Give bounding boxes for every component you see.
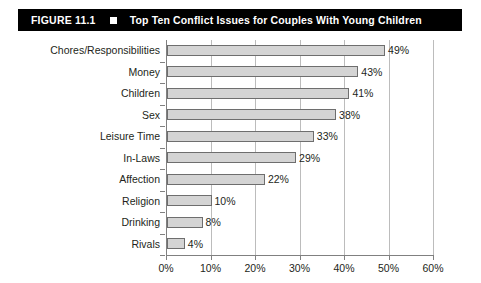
x-axis-tick-label: 30% xyxy=(280,262,320,274)
bar xyxy=(167,45,385,56)
x-axis-tick-mark xyxy=(433,256,434,260)
category-label: Sex xyxy=(0,109,160,121)
x-axis-tick-mark xyxy=(389,256,390,260)
bar-value-label: 8% xyxy=(206,216,221,228)
y-axis-tick xyxy=(160,126,165,127)
bar-value-label: 10% xyxy=(215,195,236,207)
category-label: Rivals xyxy=(0,238,160,250)
category-label: Affection xyxy=(0,173,160,185)
figure-header-bar: FIGURE 11.1 Top Ten Conflict Issues for … xyxy=(18,9,462,31)
bar-value-label: 33% xyxy=(317,130,338,142)
category-label: Religion xyxy=(0,195,160,207)
category-label: Chores/Responsibilities xyxy=(0,44,160,56)
x-axis-tick-label: 20% xyxy=(235,262,275,274)
bar-value-label: 38% xyxy=(339,109,360,121)
x-axis-tick-mark xyxy=(344,256,345,260)
y-axis-tick xyxy=(160,191,165,192)
bar xyxy=(167,66,358,77)
category-label: Leisure Time xyxy=(0,130,160,142)
y-axis-tick xyxy=(160,234,165,235)
x-axis-tick-label: 50% xyxy=(369,262,409,274)
square-bullet-icon xyxy=(110,17,117,24)
category-label: Money xyxy=(0,66,160,78)
x-axis-tick-mark xyxy=(166,256,167,260)
y-axis-tick xyxy=(160,255,165,256)
bar-value-label: 49% xyxy=(388,44,409,56)
bar xyxy=(167,131,314,142)
bar-value-label: 41% xyxy=(352,87,373,99)
x-axis-tick-label: 0% xyxy=(146,262,186,274)
bar-value-label: 22% xyxy=(268,173,289,185)
bar-value-label: 4% xyxy=(188,238,203,250)
bar-value-label: 29% xyxy=(299,152,320,164)
bar xyxy=(167,217,203,228)
gridline-60% xyxy=(433,40,434,255)
bar xyxy=(167,152,296,163)
bar-chart: Chores/Responsibilities49%Money43%Childr… xyxy=(0,36,481,283)
category-label: Children xyxy=(0,87,160,99)
y-axis-tick xyxy=(160,212,165,213)
x-axis-tick-label: 40% xyxy=(324,262,364,274)
x-axis-tick-label: 60% xyxy=(413,262,453,274)
category-label: In-Laws xyxy=(0,152,160,164)
y-axis-tick xyxy=(160,148,165,149)
bar xyxy=(167,109,336,120)
x-axis-tick-mark xyxy=(211,256,212,260)
y-axis-tick xyxy=(160,105,165,106)
figure-number: FIGURE 11.1 xyxy=(31,14,96,26)
x-axis-tick-mark xyxy=(300,256,301,260)
y-axis-tick xyxy=(160,62,165,63)
y-axis-tick xyxy=(160,169,165,170)
y-axis-tick xyxy=(160,83,165,84)
gridline-50% xyxy=(389,40,390,255)
bar-value-label: 43% xyxy=(361,66,382,78)
bar xyxy=(167,174,265,185)
x-axis-tick-label: 10% xyxy=(191,262,231,274)
bar xyxy=(167,238,185,249)
figure-title: Top Ten Conflict Issues for Couples With… xyxy=(130,14,422,26)
bar xyxy=(167,195,212,206)
category-label: Drinking xyxy=(0,216,160,228)
x-axis-tick-mark xyxy=(255,256,256,260)
bar xyxy=(167,88,349,99)
